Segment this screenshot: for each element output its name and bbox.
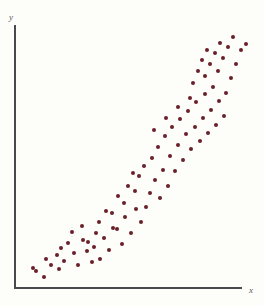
- scatter-point: [184, 132, 189, 137]
- scatter-point: [191, 81, 196, 86]
- scatter-point: [116, 194, 121, 199]
- scatter-point: [158, 196, 163, 201]
- scatter-point: [104, 209, 109, 214]
- scatter-point: [150, 156, 155, 161]
- scatter-point: [200, 58, 205, 63]
- scatter-point: [97, 220, 102, 225]
- scatter-point: [70, 230, 75, 235]
- scatter-point: [66, 241, 71, 246]
- scatter-point: [203, 92, 208, 97]
- scatter-point: [49, 263, 54, 268]
- scatter-point: [178, 117, 183, 122]
- scatter-point: [115, 227, 120, 232]
- scatter-point: [62, 259, 67, 264]
- scatter-point: [194, 100, 199, 105]
- scatter-point: [107, 248, 112, 253]
- scatter-point: [216, 69, 221, 74]
- scatter-point: [213, 51, 218, 56]
- scatter-point: [164, 116, 169, 121]
- scatter-point: [205, 48, 210, 53]
- scatter-point: [156, 145, 161, 150]
- scatter-point: [126, 184, 131, 189]
- scatter-point: [123, 215, 128, 220]
- scatter-point: [229, 76, 234, 81]
- scatter-point: [222, 114, 227, 119]
- scatter-point: [198, 139, 203, 144]
- scatter-point: [142, 164, 147, 169]
- scatter-point: [76, 263, 81, 268]
- scatter-point: [59, 246, 64, 251]
- scatter-point: [110, 211, 115, 216]
- scatter-point: [176, 105, 181, 110]
- scatter-point: [133, 189, 138, 194]
- scatter-point: [80, 224, 85, 229]
- scatter-point: [137, 174, 142, 179]
- scatter-point: [120, 242, 125, 247]
- scatter-point: [166, 184, 171, 189]
- scatter-point: [153, 178, 158, 183]
- scatter-point: [189, 147, 194, 152]
- scatter-point: [170, 125, 175, 130]
- scatter-point: [144, 205, 149, 210]
- scatter-point: [234, 62, 239, 67]
- scatter-point: [181, 158, 186, 163]
- scatter-point: [152, 128, 157, 133]
- scatter-point: [208, 62, 213, 67]
- scatter-point: [206, 131, 211, 136]
- scatter-point: [193, 125, 198, 130]
- scatter-point: [42, 275, 47, 280]
- scatter-points-layer: [0, 0, 264, 306]
- scatter-point: [81, 238, 86, 243]
- scatter-point: [188, 96, 193, 101]
- scatter-point: [134, 207, 139, 212]
- scatter-point: [239, 48, 244, 53]
- scatter-point: [94, 231, 99, 236]
- scatter-point: [218, 41, 223, 46]
- scatter-point: [163, 134, 168, 139]
- scatter-point: [92, 245, 97, 250]
- scatter-plot-figure: y x: [0, 0, 264, 306]
- scatter-point: [231, 35, 236, 40]
- scatter-point: [102, 236, 107, 241]
- scatter-point: [85, 249, 90, 254]
- scatter-point: [221, 56, 226, 61]
- scatter-point: [168, 154, 173, 159]
- scatter-point: [131, 171, 136, 176]
- scatter-point: [139, 220, 144, 225]
- scatter-point: [226, 45, 231, 50]
- scatter-point: [55, 253, 60, 258]
- scatter-point: [86, 240, 91, 245]
- scatter-point: [201, 116, 206, 121]
- scatter-point: [44, 257, 49, 262]
- scatter-point: [196, 69, 201, 74]
- scatter-point: [122, 201, 127, 206]
- scatter-point: [148, 191, 153, 196]
- scatter-point: [173, 169, 178, 174]
- scatter-point: [98, 257, 103, 262]
- scatter-point: [244, 42, 249, 47]
- scatter-point: [72, 251, 77, 256]
- scatter-point: [129, 231, 134, 236]
- scatter-point: [217, 99, 222, 104]
- scatter-point: [224, 91, 229, 96]
- scatter-point: [203, 74, 208, 79]
- scatter-point: [209, 108, 214, 113]
- scatter-point: [186, 109, 191, 114]
- scatter-point: [161, 168, 166, 173]
- scatter-point: [214, 123, 219, 128]
- scatter-point: [57, 267, 62, 272]
- scatter-point: [90, 260, 95, 265]
- scatter-point: [211, 85, 216, 90]
- scatter-point: [176, 143, 181, 148]
